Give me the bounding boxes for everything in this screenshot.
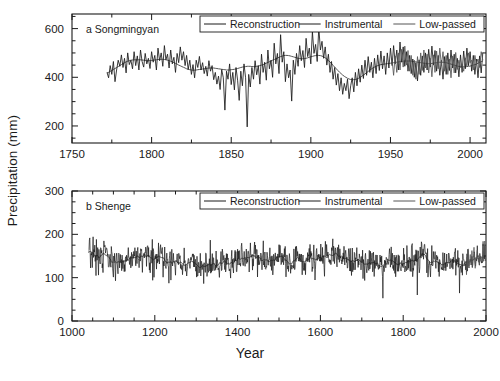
- chart-svg: 175018001850190019502000200400600a Songm…: [0, 0, 500, 381]
- x-tick-label: 1000: [59, 326, 85, 338]
- panel-label-a: a Songmingyan: [86, 23, 159, 35]
- legend-label-0: Reconstruction: [230, 195, 300, 207]
- legend-label-1: Instrumental: [325, 18, 383, 30]
- x-tick-label: 1900: [298, 148, 324, 160]
- x-axis-label: Year: [0, 345, 500, 361]
- legend-label-0: Reconstruction: [230, 18, 300, 30]
- series-instrumental: [466, 241, 486, 275]
- y-tick-label: 200: [45, 228, 64, 240]
- legend-panel-a: ReconstructionInstrumentalLow-passed: [200, 16, 484, 32]
- panel-label-b: b Shenge: [86, 200, 131, 212]
- series-reconstruction: [107, 27, 483, 127]
- series-reconstruction: [89, 237, 486, 298]
- x-tick-label: 2000: [457, 148, 483, 160]
- legend-label-2: Low-passed: [419, 18, 476, 30]
- figure-container: Precipitation (mm) 175018001850190019502…: [0, 0, 500, 381]
- x-tick-label: 1950: [378, 148, 404, 160]
- y-tick-label: 0: [58, 315, 64, 327]
- y-tick-label: 300: [45, 185, 64, 197]
- y-tick-label: 400: [45, 71, 64, 83]
- x-tick-label: 1600: [308, 326, 334, 338]
- x-tick-label: 1200: [142, 326, 168, 338]
- x-tick-label: 1850: [218, 148, 244, 160]
- legend-panel-b: ReconstructionInstrumentalLow-passed: [200, 193, 484, 209]
- y-tick-label: 200: [45, 120, 64, 132]
- x-tick-label: 2000: [473, 326, 499, 338]
- x-tick-label: 1400: [225, 326, 251, 338]
- panel-b: 1000120014001600180020000100200300b Shen…: [45, 185, 499, 338]
- x-tick-label: 1750: [59, 148, 85, 160]
- x-tick-label: 1800: [139, 148, 165, 160]
- x-tick-label: 1800: [390, 326, 416, 338]
- legend-label-1: Instrumental: [325, 195, 383, 207]
- y-tick-label: 100: [45, 272, 64, 284]
- y-tick-label: 600: [45, 23, 64, 35]
- legend-label-2: Low-passed: [419, 195, 476, 207]
- panel-a: 175018001850190019502000200400600a Songm…: [45, 14, 486, 160]
